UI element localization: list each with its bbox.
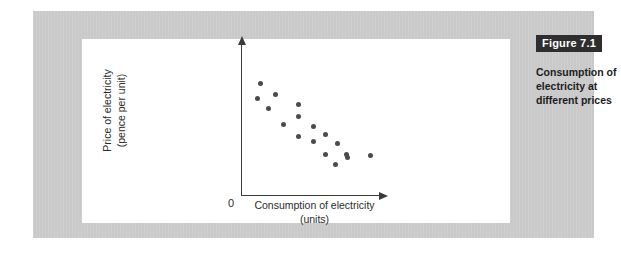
data-point (296, 102, 301, 107)
data-point (255, 96, 260, 101)
figure-caption-text: Consumption of electricity at different … (536, 65, 621, 107)
y-axis-label-line2: (pence per unit) (114, 45, 128, 177)
y-axis-label: Price of electricity (pence per unit) (101, 45, 128, 177)
y-axis-label-line1: Price of electricity (101, 45, 115, 177)
chart-card: 0 Consumption of electricity (units) Pri… (82, 39, 510, 223)
figure-panel: 0 Consumption of electricity (units) Pri… (33, 11, 594, 238)
x-axis-label-line1: Consumption of electricity (232, 198, 397, 212)
data-point (296, 134, 301, 139)
data-point (311, 124, 316, 129)
x-axis-label-line2: (units) (232, 212, 397, 226)
scatter-chart: 0 Consumption of electricity (units) Pri… (82, 39, 510, 223)
y-axis-line (241, 43, 242, 196)
data-point (296, 114, 301, 119)
data-point (368, 153, 373, 158)
figure-number-badge: Figure 7.1 (536, 35, 602, 52)
y-axis-arrow-icon (238, 36, 246, 45)
data-point (273, 92, 278, 97)
data-point (266, 106, 271, 111)
data-point (323, 132, 328, 137)
figure-root: 0 Consumption of electricity (units) Pri… (0, 0, 621, 262)
data-point (335, 141, 340, 146)
data-point (333, 162, 338, 167)
figure-caption-block: Figure 7.1 Consumption of electricity at… (536, 33, 616, 107)
x-axis-label: Consumption of electricity (units) (232, 198, 397, 226)
data-point (281, 122, 286, 127)
data-point (344, 152, 349, 157)
data-point (311, 139, 316, 144)
data-point (323, 152, 328, 157)
x-axis-line (241, 195, 383, 196)
data-point (258, 81, 263, 86)
